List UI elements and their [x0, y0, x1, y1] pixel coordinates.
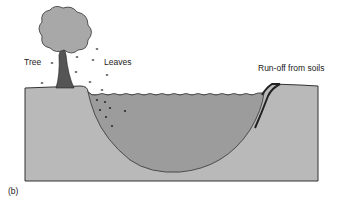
lake-diagram	[0, 0, 342, 208]
tree-canopy-icon	[39, 6, 92, 53]
tree-label: Tree	[24, 57, 41, 67]
panel-label: (b)	[8, 186, 18, 196]
runoff-label: Run-off from soils	[258, 63, 324, 73]
leaves-label: Leaves	[104, 57, 131, 67]
